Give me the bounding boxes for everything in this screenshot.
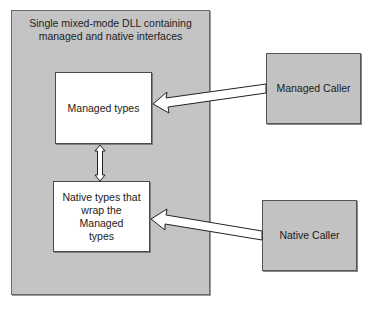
managed-types-node: Managed types xyxy=(55,72,152,144)
managed-caller-node: Managed Caller xyxy=(266,53,361,124)
managed-caller-label: Managed Caller xyxy=(276,82,350,95)
native-types-label: Native types that wrap the Managed types xyxy=(60,191,143,243)
container-title-line-1: Single mixed-mode DLL containing xyxy=(12,17,209,30)
container-title-line-2: managed and native interfaces xyxy=(12,30,209,43)
container-title: Single mixed-mode DLL containing managed… xyxy=(12,17,209,43)
native-types-label-line-3: types xyxy=(60,230,143,243)
native-types-label-line-2: wrap the Managed xyxy=(60,204,143,230)
native-caller-node: Native Caller xyxy=(262,200,357,271)
managed-types-label: Managed types xyxy=(68,102,140,115)
native-types-node: Native types that wrap the Managed types xyxy=(53,181,150,252)
native-types-label-line-1: Native types that xyxy=(60,191,143,204)
native-caller-label: Native Caller xyxy=(279,229,339,242)
mixed-mode-dll-container: Single mixed-mode DLL containing managed… xyxy=(11,10,210,295)
